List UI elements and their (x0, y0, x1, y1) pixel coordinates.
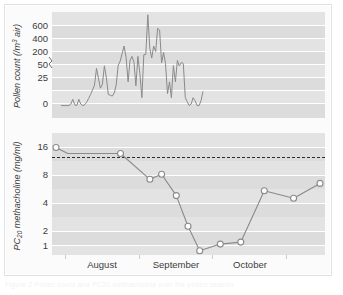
data-point (173, 193, 179, 199)
pollen-count-panel: 600 400 200 50 25 0 Pollen count (/m3 ai… (11, 12, 325, 118)
data-point (185, 223, 191, 229)
data-point (317, 180, 323, 186)
svg-text:16: 16 (37, 141, 48, 152)
x-label-october: October (233, 259, 267, 270)
data-point (238, 239, 244, 245)
svg-text:1: 1 (43, 240, 48, 251)
svg-text:0: 0 (43, 98, 48, 109)
svg-text:200: 200 (32, 46, 48, 57)
svg-text:600: 600 (32, 20, 48, 31)
pollen-y-axis-label: Pollen count (/m3 air) (11, 24, 22, 108)
svg-text:50: 50 (37, 59, 48, 70)
data-point (118, 151, 124, 157)
pc20-y-ticklabels: 16 8 4 2 1 (37, 141, 48, 251)
chart-svg: 600 400 200 50 25 0 Pollen count (/m3 ai… (0, 0, 343, 295)
pollen-y-ticklabels: 600 400 200 50 25 0 (32, 20, 48, 109)
svg-text:2: 2 (43, 225, 48, 236)
data-point (261, 188, 267, 194)
figure-caption-faint: Figure 2 Pollen count and PC20 methachol… (5, 281, 335, 293)
data-point (53, 145, 59, 151)
data-point (197, 248, 203, 254)
data-point (291, 195, 297, 201)
data-point (147, 176, 153, 182)
x-label-september: September (153, 259, 199, 270)
axis-break-icon (49, 57, 52, 68)
pc20-methacholine-panel: 16 8 4 2 1 PC20 methacholine (mg/ml) (12, 133, 325, 270)
svg-text:8: 8 (43, 169, 48, 180)
data-point (159, 171, 165, 177)
svg-text:400: 400 (32, 33, 48, 44)
figure-container: 600 400 200 50 25 0 Pollen count (/m3 ai… (0, 0, 343, 295)
svg-text:4: 4 (43, 197, 48, 208)
svg-text:25: 25 (37, 72, 48, 83)
pc20-y-axis-label: PC20 methacholine (mg/ml) (12, 142, 23, 251)
data-point (217, 241, 223, 247)
x-axis-month-labels: August September October (87, 259, 267, 270)
x-label-august: August (87, 259, 117, 270)
